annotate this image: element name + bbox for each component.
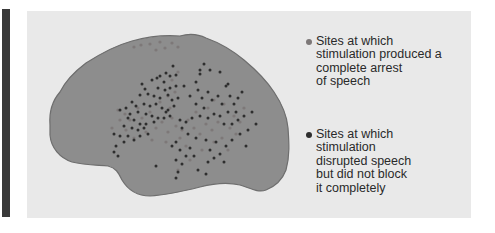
site-dot <box>228 126 231 129</box>
site-dot <box>167 109 170 112</box>
site-dot <box>247 129 250 132</box>
site-dot <box>209 149 212 152</box>
site-dot <box>171 145 174 148</box>
site-dot <box>191 117 194 120</box>
site-dot <box>155 165 158 168</box>
site-dot <box>144 88 147 91</box>
site-dot <box>173 105 176 108</box>
site-dot <box>115 145 118 148</box>
site-dot <box>153 95 156 98</box>
site-dot <box>137 129 140 132</box>
site-dot <box>172 65 175 68</box>
site-dot <box>201 97 204 100</box>
site-dot <box>147 93 150 96</box>
site-dot <box>223 123 226 126</box>
site-dot <box>198 132 201 135</box>
site-dot <box>210 128 213 131</box>
site-dot <box>141 83 144 86</box>
site-dot <box>195 103 198 106</box>
site-dot <box>215 141 218 144</box>
site-dot <box>131 127 134 130</box>
site-dot <box>205 173 208 176</box>
site-dot <box>177 97 180 100</box>
site-dot <box>227 83 230 86</box>
site-dot <box>194 110 197 113</box>
site-dot <box>239 133 242 136</box>
site-dot <box>185 121 188 124</box>
site-dot <box>131 101 134 104</box>
site-dot <box>145 113 148 116</box>
site-dot <box>117 155 120 158</box>
site-dot <box>164 140 167 143</box>
site-dot <box>150 138 153 141</box>
site-dot <box>185 155 188 158</box>
site-dot <box>232 114 235 117</box>
site-dot <box>231 123 234 126</box>
site-dot <box>155 103 158 106</box>
site-dot <box>207 161 210 164</box>
site-dot <box>199 73 202 76</box>
site-dot <box>203 63 206 66</box>
site-dot <box>219 153 222 156</box>
site-dot <box>175 74 178 77</box>
site-dot <box>204 122 207 125</box>
site-dot <box>176 45 179 48</box>
site-dot <box>237 97 240 100</box>
site-dot <box>221 103 224 106</box>
site-dot <box>179 119 182 122</box>
site-dot <box>166 130 169 133</box>
site-dot <box>251 111 254 114</box>
site-dot <box>209 69 212 72</box>
site-dot <box>124 128 127 131</box>
site-dot <box>158 40 161 43</box>
site-dot <box>255 123 258 126</box>
site-dot <box>200 148 203 151</box>
site-dot <box>223 161 226 164</box>
site-dot <box>161 107 164 110</box>
site-dot <box>213 113 216 116</box>
site-dot <box>237 119 240 122</box>
site-dot <box>171 99 174 102</box>
site-dot <box>175 177 178 180</box>
site-dot <box>140 116 143 119</box>
site-dot <box>163 81 166 84</box>
site-dot <box>169 87 172 90</box>
site-dot <box>241 91 244 94</box>
site-dot <box>184 144 187 147</box>
site-dot <box>139 123 142 126</box>
site-dot <box>243 115 246 118</box>
site-dot <box>159 97 162 100</box>
site-dot <box>165 72 168 75</box>
site-dot <box>226 148 229 151</box>
site-dot <box>181 127 184 130</box>
site-dot <box>207 91 210 94</box>
site-dot <box>135 105 138 108</box>
site-dot <box>175 85 178 88</box>
site-dot <box>216 120 219 123</box>
site-dot <box>197 89 200 92</box>
site-dot <box>175 141 178 144</box>
site-dot <box>219 115 222 118</box>
site-dot <box>156 77 159 80</box>
site-dot <box>123 141 126 144</box>
legend-arrest-label: Sites at which stimulation produced a co… <box>316 35 471 89</box>
site-dot <box>148 110 151 113</box>
site-dot <box>163 117 166 120</box>
site-dot <box>177 171 180 174</box>
site-dot <box>148 42 151 45</box>
site-dot <box>129 113 132 116</box>
site-dot <box>149 105 152 108</box>
site-dot <box>175 159 178 162</box>
site-dot <box>169 75 172 78</box>
site-dot <box>179 149 182 152</box>
site-dot <box>207 117 210 120</box>
site-dot <box>164 89 167 92</box>
site-dot <box>206 106 209 109</box>
site-dot <box>193 155 196 158</box>
light-gray-dot-icon <box>306 39 312 45</box>
site-dot <box>123 125 126 128</box>
dark-gray-dot-icon <box>306 132 312 138</box>
site-dot <box>188 158 191 161</box>
site-dot <box>159 75 162 78</box>
site-dot <box>118 118 121 121</box>
